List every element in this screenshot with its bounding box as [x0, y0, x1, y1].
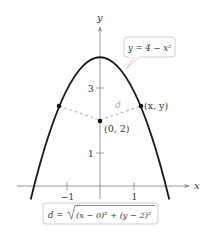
y-tick-label-1: 1 — [88, 149, 94, 159]
left-point — [57, 104, 62, 109]
equation-label: y = 4 − x² — [127, 43, 172, 53]
moving-point-label: (x, y) — [144, 100, 168, 111]
center-point-label: (0, 2) — [104, 123, 130, 134]
moving-point — [139, 104, 144, 109]
formula-lhs: d = — [48, 210, 63, 220]
y-tick-label-3: 3 — [88, 84, 94, 94]
equation-callout: y = 4 − x² — [124, 37, 175, 69]
parabola-distance-diagram: x y −1 1 1 3 d (x, y) (0, 2) y = 4 − x² … — [0, 0, 207, 239]
distance-dash-left — [59, 106, 100, 120]
y-axis-label: y — [96, 12, 103, 23]
distance-label: d — [115, 100, 121, 110]
formula-radicand: (x − 0)² + (y − 2)² — [76, 210, 151, 220]
x-tick-label-1: 1 — [132, 192, 138, 202]
x-tick-label-minus-1: −1 — [61, 192, 74, 202]
distance-formula-box: d = (x − 0)² + (y − 2)² — [43, 203, 158, 224]
x-axis-label: x — [194, 180, 200, 191]
center-point — [98, 119, 103, 124]
